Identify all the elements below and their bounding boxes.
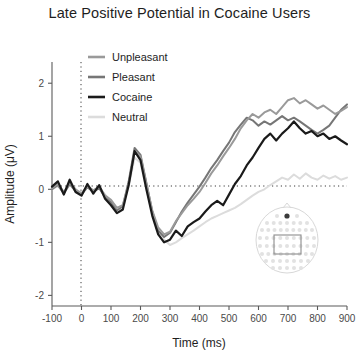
- x-tick-label: -100: [42, 313, 62, 324]
- electrode-dot: [292, 259, 296, 263]
- electrode-dot: [266, 228, 270, 232]
- electrode-dot: [266, 252, 270, 256]
- electrode-dot: [265, 221, 269, 225]
- x-tick-group: -1000100200300400500600700800900: [42, 306, 356, 324]
- y-tick-label: -2: [35, 290, 44, 301]
- x-tick-label: 200: [132, 313, 149, 324]
- electrode-dot: [271, 259, 275, 263]
- y-tick-label: -1: [35, 237, 44, 248]
- x-tick-label: 100: [103, 313, 120, 324]
- erp-traces-group: [52, 98, 347, 245]
- electrode-dot: [312, 236, 316, 240]
- highlighted-electrode: [284, 213, 289, 218]
- electrode-dot: [273, 228, 277, 232]
- electrode-dot: [265, 244, 269, 248]
- electrode-dot: [312, 244, 316, 248]
- y-tick-label: 2: [38, 78, 44, 89]
- electrode-dot: [310, 252, 314, 256]
- x-tick-label: 900: [339, 313, 356, 324]
- electrode-dot: [299, 266, 303, 270]
- electrode-dot: [304, 252, 308, 256]
- electrode-dot: [299, 259, 303, 263]
- electrode-dot: [278, 259, 282, 263]
- axes-group: [52, 62, 347, 306]
- erp-trace-unpleasant: [52, 98, 347, 234]
- electrode-dot: [275, 214, 279, 218]
- x-tick-label: 700: [280, 313, 297, 324]
- electrode-dot: [279, 228, 283, 232]
- legend-label-pleasant: Pleasant: [112, 71, 155, 83]
- electrode-dot: [260, 228, 264, 232]
- electrode-dot: [285, 266, 289, 270]
- electrode-dot: [305, 221, 309, 225]
- electrode-dot: [291, 228, 295, 232]
- electrode-dot: [305, 244, 309, 248]
- legend-label-cocaine: Cocaine: [112, 91, 152, 103]
- y-tick-label: 0: [38, 184, 44, 195]
- y-tick-group: 210-1-2: [35, 78, 52, 301]
- electrode-dot: [278, 244, 282, 248]
- electrode-dot: [285, 236, 289, 240]
- electrode-dot: [292, 244, 296, 248]
- electrode-dot: [298, 221, 302, 225]
- chart-canvas: 210-1-2 -1000100200300400500600700800900…: [0, 0, 359, 358]
- x-tick-label: 800: [309, 313, 326, 324]
- chart-figure: Late Positive Potential in Cocaine Users…: [0, 0, 359, 358]
- x-tick-label: 600: [250, 313, 267, 324]
- legend-label-neutral: Neutral: [112, 111, 147, 123]
- electrode-dot: [285, 244, 289, 248]
- electrode-dot: [292, 221, 296, 225]
- x-tick-label: 0: [79, 313, 85, 324]
- electrode-dot: [258, 244, 262, 248]
- x-axis-label: Time (ms): [172, 336, 226, 350]
- electrode-dot: [298, 228, 302, 232]
- erp-trace-cocaine: [52, 121, 347, 242]
- electrode-dot: [285, 228, 289, 232]
- electrode-dot: [292, 236, 296, 240]
- electrode-dot: [285, 259, 289, 263]
- electrode-dot: [264, 259, 268, 263]
- y-tick-label: 1: [38, 131, 44, 142]
- electrode-dot: [260, 252, 264, 256]
- electrode-dot: [271, 266, 275, 270]
- chart-legend: UnpleasantPleasantCocaineNeutral: [88, 51, 168, 123]
- electrode-dot: [278, 236, 282, 240]
- erp-trace-neutral: [52, 157, 347, 245]
- eeg-montage-inset: [256, 203, 318, 273]
- electrode-dot: [278, 266, 282, 270]
- electrode-dot: [305, 236, 309, 240]
- electrode-dot: [304, 228, 308, 232]
- electrode-dot: [265, 236, 269, 240]
- electrode-dot: [278, 221, 282, 225]
- electrode-dots: [258, 214, 316, 270]
- y-axis-label: Amplitude (μV): [3, 144, 17, 224]
- electrode-dot: [295, 214, 299, 218]
- electrode-dot: [258, 236, 262, 240]
- x-tick-label: 300: [162, 313, 179, 324]
- x-tick-label: 400: [191, 313, 208, 324]
- electrode-dot: [310, 228, 314, 232]
- electrode-dot: [285, 221, 289, 225]
- electrode-dot: [306, 259, 310, 263]
- x-tick-label: 500: [221, 313, 238, 324]
- legend-label-unpleasant: Unpleasant: [112, 51, 168, 63]
- electrode-dot: [272, 221, 276, 225]
- electrode-dot: [292, 266, 296, 270]
